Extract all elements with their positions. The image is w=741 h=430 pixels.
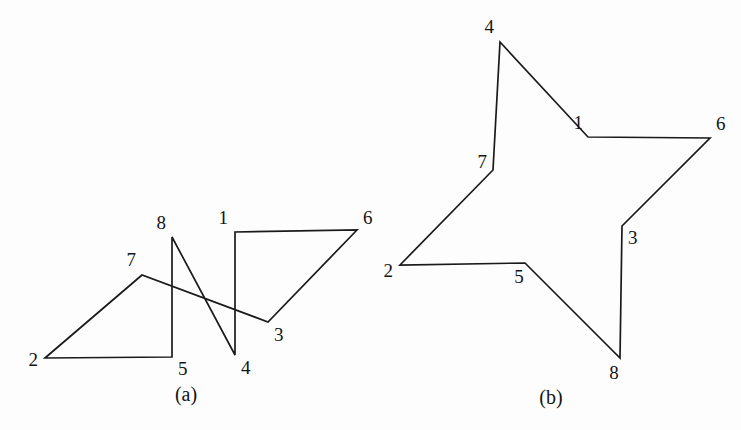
polygon-path-b — [400, 42, 710, 358]
vertex-label-b-8: 8 — [609, 362, 619, 383]
vertex-label-a-6: 6 — [363, 207, 373, 228]
panel-b: 41638527(b) — [384, 16, 726, 409]
vertex-label-a-7: 7 — [127, 249, 137, 270]
vertex-label-a-3: 3 — [274, 324, 284, 345]
vertex-label-b-5: 5 — [514, 266, 524, 287]
figure-page: 12345678(a) 41638527(b) — [0, 0, 741, 430]
polygon-path-a — [45, 230, 357, 358]
vertex-label-a-8: 8 — [157, 212, 167, 233]
vertex-label-b-4: 4 — [485, 16, 495, 37]
vertex-label-b-1: 1 — [574, 112, 584, 133]
vertex-label-b-2: 2 — [384, 260, 394, 281]
panel-a: 12345678(a) — [29, 207, 373, 406]
panel-caption-b: (b) — [539, 386, 562, 409]
vertex-label-b-3: 3 — [628, 227, 638, 248]
figure-canvas: 12345678(a) 41638527(b) — [0, 0, 741, 430]
vertex-label-a-4: 4 — [241, 357, 251, 378]
vertex-label-a-1: 1 — [219, 207, 229, 228]
vertex-label-a-2: 2 — [29, 349, 39, 370]
vertex-label-b-6: 6 — [716, 113, 726, 134]
vertex-label-a-5: 5 — [178, 358, 188, 379]
vertex-label-b-7: 7 — [478, 151, 488, 172]
panel-caption-a: (a) — [175, 383, 197, 406]
